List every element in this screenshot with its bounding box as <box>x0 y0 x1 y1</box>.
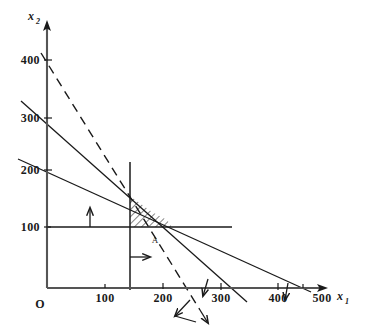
x-axis-label-text: x <box>336 289 343 303</box>
x-tick-label-200: 200 <box>153 291 172 305</box>
vertex-label-a: A <box>152 235 159 245</box>
direction-arrow-down-left <box>175 300 196 322</box>
x-tick-label-300: 300 <box>211 291 230 305</box>
y-axis-label-text: x <box>27 9 34 23</box>
figure-canvas: 100 200 300 400 500 100 200 300 400 O x … <box>0 0 370 332</box>
y-axis-label: x 2 <box>27 9 40 26</box>
x-axis-label-subscript: 1 <box>345 297 349 306</box>
y-tick-label-400: 400 <box>21 53 40 67</box>
y-tick-label-100: 100 <box>21 220 40 234</box>
y-axis-label-subscript: 2 <box>35 17 40 26</box>
constraint-line-dashed <box>41 53 208 323</box>
y-tick-label-200: 200 <box>21 163 40 177</box>
feasible-region <box>130 196 172 227</box>
x-tick-label-400: 400 <box>268 291 287 305</box>
x-axis-label: x 1 <box>336 289 349 306</box>
y-tick-label-300: 300 <box>21 111 40 125</box>
constraint-line-shallow <box>18 159 311 292</box>
origin-label: O <box>35 297 44 311</box>
x-tick-label-100: 100 <box>95 291 114 305</box>
linear-programming-plot: 100 200 300 400 500 100 200 300 400 O x … <box>0 0 370 332</box>
x-tick-label-500: 500 <box>312 291 331 305</box>
constraint-line-steep <box>21 101 247 302</box>
